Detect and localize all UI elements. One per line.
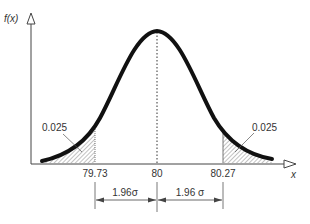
right-cutoff-label: 80.27 [210,168,235,179]
x-axis-arrow-icon [284,160,296,168]
right-interval-label: 1.96 σ [176,187,205,198]
left-tail-area-label: 0.025 [42,122,67,133]
right-tail-area-label: 0.025 [252,122,277,133]
left-interval-label: 1.96σ [112,187,138,198]
mean-label: 80 [151,168,163,179]
y-axis-label: f(x) [4,13,18,24]
left-cutoff-label: 79.73 [82,168,107,179]
y-axis-arrow-icon [27,13,35,24]
normal-distribution-diagram: 0.025 0.025 f(x) x 79.73 80 80.27 1.96σ … [0,0,310,224]
x-axis-label: x [290,169,297,180]
